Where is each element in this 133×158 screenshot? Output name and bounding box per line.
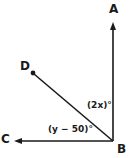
geometry-figure: A B C D (2x)° (y − 50)° (0, 0, 133, 158)
arrowhead-c-icon (14, 138, 22, 144)
point-label-d: D (20, 60, 30, 72)
angle-label-abd: (2x)° (87, 101, 112, 110)
point-label-a: A (109, 3, 118, 15)
geometry-canvas (0, 0, 133, 158)
point-label-b: B (117, 143, 126, 155)
angle-label-dbc: (y − 50)° (48, 125, 93, 134)
endpoint-dot-d-icon (31, 71, 36, 76)
point-label-c: C (1, 133, 10, 145)
arrowhead-a-icon (110, 22, 116, 30)
